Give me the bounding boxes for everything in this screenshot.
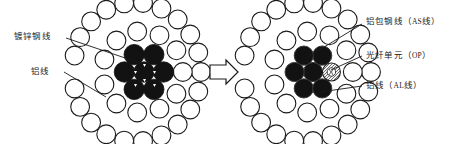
label-op-text: 光纤单元（ bbox=[366, 50, 412, 60]
label-op-text2: ） bbox=[422, 50, 431, 60]
label-aluminium-wire: 铝线 bbox=[31, 67, 49, 76]
label-al-code: AL bbox=[394, 81, 404, 90]
optical-unit bbox=[322, 63, 340, 81]
label-aluminium-clad-steel-wire: 铝包钢线（AS线） bbox=[366, 17, 440, 26]
label-al-text: 铝线（ bbox=[366, 80, 394, 90]
label-al-text2: 线） bbox=[404, 80, 422, 90]
figure-container: 镀锌钢线 铝线 铝包钢线（AS线） 光纤单元（OP） 铝线（AL线） bbox=[0, 0, 465, 144]
label-galvanized-steel-wire: 镀锌钢线 bbox=[14, 32, 51, 41]
label-optical-fibre-unit: 光纤单元（OP） bbox=[366, 51, 431, 60]
label-aluminium-wire-text: 铝线 bbox=[31, 66, 49, 76]
label-op-code: OP bbox=[412, 51, 422, 60]
label-galvanized-steel-wire-text: 镀锌钢线 bbox=[14, 31, 51, 41]
label-as-text: 铝包钢线（ bbox=[366, 16, 412, 26]
label-aluminium-wire-al: 铝线（AL线） bbox=[366, 81, 422, 90]
label-as-text2: 线） bbox=[422, 16, 440, 26]
label-as-code: AS bbox=[412, 17, 422, 26]
